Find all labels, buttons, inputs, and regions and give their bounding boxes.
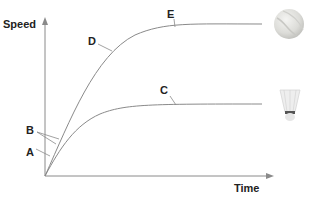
y-axis-label: Speed bbox=[3, 19, 36, 30]
leader-C bbox=[170, 96, 176, 105]
leader-D bbox=[98, 44, 112, 51]
label-B: B bbox=[26, 125, 34, 136]
speed-time-diagram: Speed Time A B C D E bbox=[0, 0, 315, 201]
graph-canvas bbox=[0, 0, 315, 201]
curve-lower bbox=[45, 104, 262, 176]
label-D: D bbox=[88, 36, 96, 47]
leader-E bbox=[174, 19, 175, 27]
y-axis-arrow-icon bbox=[42, 17, 48, 25]
label-E: E bbox=[167, 9, 174, 20]
curve-upper bbox=[45, 24, 262, 176]
x-axis-arrow-icon bbox=[266, 173, 274, 179]
leader-A bbox=[36, 149, 50, 156]
label-C: C bbox=[160, 85, 168, 96]
label-A: A bbox=[26, 147, 34, 158]
leader-B2 bbox=[37, 132, 56, 144]
tennis-ball-icon bbox=[274, 9, 304, 39]
x-axis-label: Time bbox=[234, 183, 259, 194]
leader-B1 bbox=[37, 132, 59, 139]
shuttlecock-icon bbox=[280, 90, 300, 121]
